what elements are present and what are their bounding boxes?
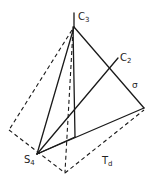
edge-apex-right [74,27,144,108]
label-s4-sub: 4 [30,159,34,167]
label-c3-sub: 3 [85,16,89,24]
dashed-left-bottom [9,130,65,173]
label-c3-main: C [78,11,85,22]
label-sigma: σ [132,81,138,90]
edge-apex-s4 [37,27,74,154]
label-sigma-main: σ [132,80,138,90]
dashed-apex-bottom [65,30,73,172]
label-td-sub: d [108,160,112,168]
c2-axis [37,58,118,154]
label-c2: C2 [120,53,131,65]
label-td: Td [102,156,113,168]
label-s4: S4 [24,155,35,167]
label-c3: C3 [78,12,89,24]
edge-apex-inner [73,27,75,137]
dashed-apex-left [9,30,72,130]
tetrahedron-drawing [0,0,151,183]
label-c2-main: C [120,52,127,63]
td-symmetry-diagram: C3 C2 σ S4 Td [0,0,151,183]
label-c2-sub: 2 [127,57,131,65]
edge-inner-s4 [37,137,75,154]
